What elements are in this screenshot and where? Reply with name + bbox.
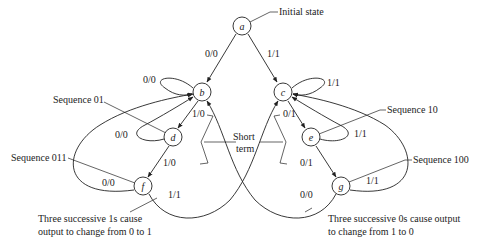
label-g-b: 0/0 xyxy=(300,189,313,200)
node-g: g xyxy=(332,177,350,195)
short-term-label-1: Short xyxy=(233,131,255,142)
node-c: c xyxy=(274,83,292,101)
state-diagram: a b c d e f g 0/0 1/1 0/0 1/1 1/0 0/0 1/… xyxy=(0,0,480,246)
svg-text:e: e xyxy=(309,132,314,143)
label-e-c: 1/1 xyxy=(354,128,367,139)
ones-note-line1: Three successive 1s cause xyxy=(38,213,143,224)
edge-c-c xyxy=(292,78,325,95)
zeros-note-line2: to change from 1 to 0 xyxy=(328,226,414,237)
label-b-d: 1/0 xyxy=(192,108,205,119)
edge-e-g xyxy=(316,146,336,177)
annotations: Initial state Sequence 01 Sequence 011 S… xyxy=(11,6,469,237)
initial-state-label: Initial state xyxy=(279,6,324,17)
label-d-b: 0/0 xyxy=(115,129,128,140)
edges xyxy=(73,34,408,218)
edge-e-c xyxy=(292,97,348,141)
leaders xyxy=(68,12,412,212)
svg-text:b: b xyxy=(200,87,205,98)
label-c-e: 0/1 xyxy=(283,108,296,119)
short-term-label-2: term xyxy=(236,143,255,154)
label-g-c: 1/1 xyxy=(366,175,379,186)
label-b-b: 0/0 xyxy=(143,74,156,85)
ones-note-line2: output to change from 0 to 1 xyxy=(38,226,152,237)
label-c-c: 1/1 xyxy=(327,77,340,88)
sequence-100-label: Sequence 100 xyxy=(413,154,469,165)
node-b: b xyxy=(193,83,211,101)
node-f: f xyxy=(134,177,152,195)
label-f-b: 0/0 xyxy=(102,177,115,188)
svg-text:a: a xyxy=(240,21,245,32)
label-e-g: 0/1 xyxy=(300,157,313,168)
nodes: a b c d e f g xyxy=(134,17,350,195)
edge-g-b xyxy=(207,101,336,218)
label-a-c: 1/1 xyxy=(267,48,280,59)
label-a-b: 0/0 xyxy=(205,48,218,59)
node-a: a xyxy=(233,17,251,35)
label-d-f: 1/0 xyxy=(163,157,176,168)
label-f-c: 1/1 xyxy=(168,189,181,200)
node-e: e xyxy=(302,128,320,146)
edge-b-b xyxy=(160,78,193,95)
node-d: d xyxy=(164,128,182,146)
svg-text:g: g xyxy=(339,181,344,192)
sequence-10-label: Sequence 10 xyxy=(387,104,438,115)
svg-text:c: c xyxy=(281,87,286,98)
sequence-01-label: Sequence 01 xyxy=(53,94,104,105)
zeros-note-line1: Three successive 0s cause output xyxy=(328,213,460,224)
sequence-011-label: Sequence 011 xyxy=(11,152,66,163)
